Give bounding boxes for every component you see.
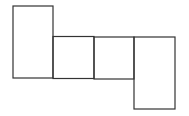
face-top-left [13, 6, 53, 78]
face-middle-2 [94, 37, 134, 79]
net-diagram [0, 0, 189, 116]
face-middle-1 [53, 37, 94, 79]
face-bottom-right [134, 37, 175, 109]
